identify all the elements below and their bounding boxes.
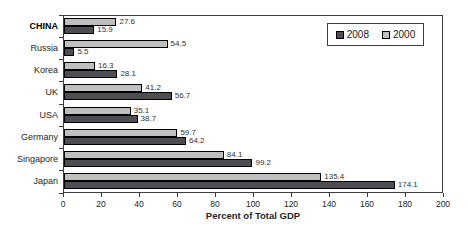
value-label-2000-china: 27.6: [119, 18, 135, 26]
bar-2000-germany: [64, 129, 177, 137]
x-tick-120: [291, 193, 292, 197]
bar-2008-uk: [64, 92, 172, 100]
category-label-korea: Korea: [0, 65, 58, 76]
x-tick-label-180: 180: [390, 199, 420, 209]
category-label-germany: Germany: [0, 132, 58, 143]
x-tick-20: [101, 193, 102, 197]
y-tick-0: [59, 15, 63, 16]
x-tick-60: [177, 193, 178, 197]
x-tick-label-80: 80: [200, 199, 230, 209]
value-label-2008-china: 15.9: [97, 26, 113, 34]
legend-item-2000: 2000: [382, 29, 415, 40]
bar-2008-china: [64, 26, 94, 34]
category-label-japan: Japan: [0, 176, 58, 187]
bar-2000-singapore: [64, 151, 224, 159]
y-tick-5: [59, 126, 63, 127]
x-tick-label-100: 100: [238, 199, 268, 209]
category-label-china: CHINA: [0, 21, 58, 32]
bar-2000-usa: [64, 107, 131, 115]
x-tick-label-0: 0: [48, 199, 78, 209]
value-label-2008-usa: 38.7: [141, 115, 157, 123]
x-tick-140: [329, 193, 330, 197]
x-axis-title: Percent of Total GDP: [63, 210, 443, 221]
x-tick-label-60: 60: [162, 199, 192, 209]
x-tick-label-40: 40: [124, 199, 154, 209]
x-tick-label-200: 200: [428, 199, 458, 209]
bar-2000-japan: [64, 173, 321, 181]
value-label-2008-uk: 56.7: [175, 92, 191, 100]
legend-swatch-2000: [382, 31, 390, 39]
x-tick-180: [405, 193, 406, 197]
x-tick-label-140: 140: [314, 199, 344, 209]
legend: 2008 2000: [327, 23, 424, 46]
category-label-singapore: Singapore: [0, 154, 58, 165]
value-label-2000-russia: 54.5: [171, 40, 187, 48]
x-tick-200: [443, 193, 444, 197]
legend-label-2008: 2008: [347, 29, 369, 40]
bar-2000-uk: [64, 84, 142, 92]
x-tick-80: [215, 193, 216, 197]
bar-2000-korea: [64, 62, 95, 70]
value-label-2000-japan: 135.4: [324, 173, 344, 181]
category-label-usa: USA: [0, 110, 58, 121]
y-tick-7: [59, 170, 63, 171]
legend-swatch-2008: [336, 31, 344, 39]
bar-2008-japan: [64, 181, 395, 189]
x-tick-100: [253, 193, 254, 197]
bar-2008-russia: [64, 48, 74, 56]
y-tick-4: [59, 104, 63, 105]
value-label-2008-germany: 64.2: [189, 137, 205, 145]
gdp-bar-chart: 2008 2000 Percent of Total GDP CHINA27.6…: [0, 0, 467, 234]
y-tick-1: [59, 37, 63, 38]
category-label-uk: UK: [0, 87, 58, 98]
x-tick-40: [139, 193, 140, 197]
category-label-russia: Russia: [0, 43, 58, 54]
bar-2008-usa: [64, 115, 138, 123]
bar-2008-korea: [64, 70, 117, 78]
x-tick-label-20: 20: [86, 199, 116, 209]
y-tick-8: [59, 193, 63, 194]
bar-2008-germany: [64, 137, 186, 145]
value-label-2008-singapore: 99.2: [255, 159, 271, 167]
value-label-2008-russia: 5.5: [77, 48, 88, 56]
bar-2008-singapore: [64, 159, 252, 167]
value-label-2000-uk: 41.2: [145, 84, 161, 92]
value-label-2008-japan: 174.1: [398, 181, 418, 189]
y-tick-6: [59, 148, 63, 149]
legend-item-2008: 2008: [336, 29, 369, 40]
x-tick-0: [63, 193, 64, 197]
value-label-2008-korea: 28.1: [120, 70, 136, 78]
legend-label-2000: 2000: [393, 29, 415, 40]
x-tick-label-160: 160: [352, 199, 382, 209]
value-label-2000-korea: 16.3: [98, 62, 114, 70]
x-tick-160: [367, 193, 368, 197]
y-tick-2: [59, 59, 63, 60]
x-tick-label-120: 120: [276, 199, 306, 209]
y-tick-3: [59, 81, 63, 82]
value-label-2000-singapore: 84.1: [227, 151, 243, 159]
